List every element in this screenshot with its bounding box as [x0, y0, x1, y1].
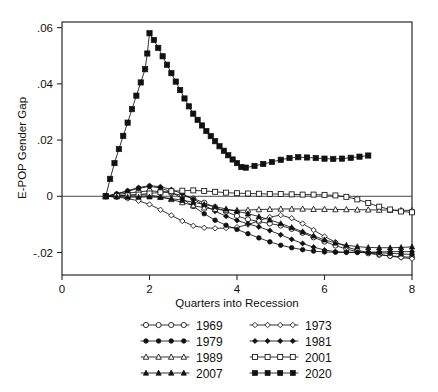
data-point-marker — [333, 193, 338, 198]
data-point-marker — [278, 192, 283, 197]
data-point-marker — [243, 165, 248, 170]
data-point-marker — [278, 243, 283, 248]
data-point-marker — [169, 339, 174, 344]
data-point-marker — [199, 123, 204, 128]
data-point-marker — [252, 163, 257, 168]
y-tick-label: .04 — [37, 78, 54, 90]
data-point-marker — [121, 133, 126, 138]
data-point-marker — [156, 45, 161, 50]
data-point-marker — [296, 155, 301, 160]
data-point-marker — [253, 355, 258, 360]
data-point-marker — [278, 157, 283, 162]
data-point-marker — [300, 247, 305, 252]
data-point-marker — [287, 155, 292, 160]
data-point-marker — [344, 194, 349, 199]
data-point-marker — [377, 204, 382, 209]
x-tick-label: 6 — [321, 283, 327, 295]
data-point-marker — [256, 191, 261, 196]
data-point-marker — [116, 146, 121, 151]
data-point-marker — [357, 154, 362, 159]
data-point-marker — [173, 79, 178, 84]
data-point-marker — [143, 322, 148, 327]
data-point-marker — [245, 191, 250, 196]
data-point-marker — [169, 322, 174, 327]
x-axis-title: Quarters into Recession — [175, 297, 298, 309]
data-point-marker — [269, 159, 274, 164]
data-point-marker — [180, 188, 185, 193]
data-point-marker — [134, 93, 139, 98]
data-point-marker — [289, 245, 294, 250]
data-point-marker — [265, 355, 270, 360]
legend-label-1981: 1981 — [305, 335, 332, 349]
data-point-marker — [195, 117, 200, 122]
data-point-marker — [304, 155, 309, 160]
data-point-marker — [355, 197, 360, 202]
data-point-marker — [268, 240, 273, 245]
data-point-marker — [169, 189, 174, 194]
data-point-marker — [265, 371, 270, 376]
data-point-marker — [313, 155, 318, 160]
data-point-marker — [331, 156, 336, 161]
data-point-marker — [235, 191, 240, 196]
data-point-marker — [204, 128, 209, 133]
data-point-marker — [147, 31, 152, 36]
data-point-marker — [253, 371, 258, 376]
data-point-marker — [213, 139, 218, 144]
data-point-marker — [289, 192, 294, 197]
legend-label-2001: 2001 — [305, 351, 332, 365]
data-point-marker — [191, 188, 196, 193]
x-tick-label: 4 — [234, 283, 241, 295]
data-point-marker — [290, 371, 295, 376]
data-point-marker — [108, 176, 113, 181]
data-point-marker — [182, 339, 187, 344]
data-point-marker — [178, 87, 183, 92]
data-point-marker — [224, 190, 229, 195]
data-point-marker — [182, 96, 187, 101]
x-tick-label: 2 — [146, 283, 152, 295]
data-point-marker — [322, 156, 327, 161]
data-point-marker — [278, 371, 283, 376]
data-point-marker — [224, 223, 229, 228]
y-tick-label: -.02 — [33, 247, 53, 259]
line-chart: -.020.02.04.06 02468 E-POP Gender Gap Qu… — [0, 0, 438, 392]
x-tick-label: 0 — [59, 283, 65, 295]
legend-label-2007: 2007 — [196, 367, 223, 381]
y-tick-label: .06 — [37, 22, 53, 34]
data-point-marker — [156, 339, 161, 344]
data-point-marker — [213, 189, 218, 194]
data-point-marker — [235, 227, 240, 232]
data-point-marker — [191, 111, 196, 116]
data-point-marker — [322, 192, 327, 197]
data-point-marker — [169, 71, 174, 76]
legend-label-2020: 2020 — [305, 367, 332, 381]
data-point-marker — [213, 218, 218, 223]
data-point-marker — [300, 192, 305, 197]
data-point-marker — [151, 37, 156, 42]
data-point-marker — [164, 62, 169, 67]
y-axis-title: E-POP Gender Gap — [16, 97, 28, 199]
data-point-marker — [348, 155, 353, 160]
data-point-marker — [138, 80, 143, 85]
data-point-marker — [290, 355, 295, 360]
y-tick-label: 0 — [47, 190, 53, 202]
data-point-marker — [278, 355, 283, 360]
data-point-marker — [103, 194, 108, 199]
data-point-marker — [129, 107, 134, 112]
data-point-marker — [311, 192, 316, 197]
legend-label-1973: 1973 — [305, 319, 332, 333]
data-point-marker — [144, 339, 149, 344]
x-tick-label: 8 — [409, 283, 415, 295]
y-tick-label: .02 — [37, 134, 53, 146]
data-point-marker — [181, 322, 186, 327]
data-point-marker — [208, 134, 213, 139]
data-point-marker — [202, 188, 207, 193]
data-point-marker — [202, 211, 207, 216]
data-point-marker — [366, 153, 371, 158]
legend-label-1979: 1979 — [196, 335, 223, 349]
data-point-marker — [257, 236, 262, 241]
data-point-marker — [186, 104, 191, 109]
data-point-marker — [246, 231, 251, 236]
data-point-marker — [112, 160, 117, 165]
data-point-marker — [339, 156, 344, 161]
data-point-marker — [388, 207, 393, 212]
